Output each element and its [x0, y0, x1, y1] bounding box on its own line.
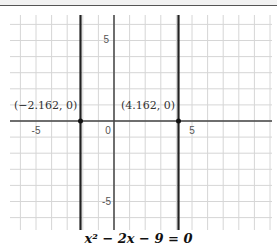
tick-y-5: 5 [103, 34, 109, 45]
tick-x-neg5: -5 [32, 125, 41, 136]
tick-x-0: 0 [105, 125, 111, 136]
root-point-right [176, 119, 181, 124]
point-label-right: (4.162, 0) [121, 99, 175, 112]
root-point-left [78, 119, 83, 124]
graph-canvas: -5 0 5 5 -5 (−2.162, 0) (4.162, 0) [0, 0, 277, 251]
point-label-left: (−2.162, 0) [14, 99, 77, 112]
tick-x-5: 5 [189, 125, 195, 136]
tick-y-neg5: -5 [102, 196, 111, 207]
grid-lines [10, 15, 272, 230]
equation-caption: x² − 2x − 9 = 0 [0, 231, 277, 246]
